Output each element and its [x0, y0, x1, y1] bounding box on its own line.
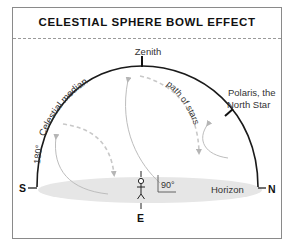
east-label: E — [137, 212, 144, 224]
star-trail-polaris — [203, 124, 228, 158]
polaris-label-line2: North Star — [227, 99, 270, 110]
angle-180-label: 180° — [32, 144, 44, 164]
south-label: S — [19, 182, 26, 194]
dashed-path-south — [63, 124, 114, 174]
path-of-stars-label: path of stars — [165, 79, 202, 127]
star-trail-zenith — [126, 80, 160, 183]
polaris-tick — [225, 109, 233, 116]
angle-90-label: 90° — [161, 180, 175, 190]
celestial-sphere-diagram: Zenith Celestial median 180° path of sta… — [0, 0, 291, 250]
celestial-median-label: Celestial median — [36, 75, 89, 137]
zenith-label: Zenith — [135, 46, 161, 57]
north-label: N — [268, 183, 276, 195]
polaris-label-line1: Polaris, the — [228, 87, 276, 98]
horizon-label: Horizon — [211, 184, 244, 195]
